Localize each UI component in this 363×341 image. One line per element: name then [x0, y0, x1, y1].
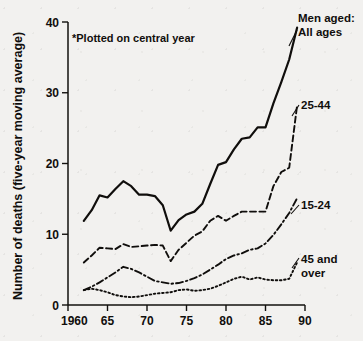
line-chart-svg: 010203040 1960657075808590 Number of dea…	[0, 0, 363, 341]
series-label-25-44: 25-44	[301, 99, 331, 111]
chart-figure: 010203040 1960657075808590 Number of dea…	[0, 0, 363, 341]
series-label-45-over-line1: 45 and	[301, 253, 337, 265]
x-tick-label: 65	[101, 314, 115, 328]
y-axis-ticks: 010203040	[46, 16, 68, 313]
x-tick-label: 85	[259, 314, 273, 328]
x-tick-label: 90	[298, 314, 312, 328]
x-axis-ticks: 1960657075808590	[61, 305, 312, 328]
x-tick-label: 75	[180, 314, 194, 328]
chart-annotation: *Plotted on central year	[72, 32, 196, 44]
y-tick-label: 10	[46, 228, 60, 242]
y-tick-label: 20	[46, 157, 60, 171]
y-tick-label: 40	[46, 16, 60, 30]
series-label-all-ages: All ages	[298, 26, 342, 38]
legend-title: Men aged:	[298, 12, 355, 24]
x-tick-label: 80	[219, 314, 233, 328]
series-label-45-over-line2: over	[301, 267, 326, 279]
y-axis-title: Number of deaths (five-year moving avera…	[11, 32, 25, 300]
series-line-25-44	[84, 105, 297, 262]
series-label-15-24: 15-24	[301, 199, 331, 211]
x-tick-label: 1960	[61, 314, 88, 328]
series-line-all-ages	[84, 28, 297, 231]
leader-15-24	[291, 205, 299, 214]
y-tick-label: 30	[46, 86, 60, 100]
x-tick-label: 70	[140, 314, 154, 328]
series-lines	[84, 28, 299, 298]
leader-25-44	[292, 105, 299, 116]
y-tick-label: 0	[52, 299, 59, 313]
